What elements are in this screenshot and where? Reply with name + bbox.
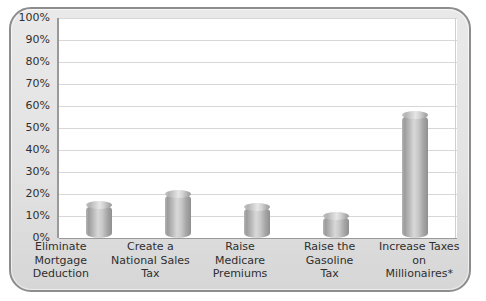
- bar[interactable]: [165, 194, 191, 238]
- y-axis-tick-label: 80%: [0, 56, 50, 67]
- bar-top-cap: [244, 203, 270, 211]
- y-axis-tick-label: 90%: [0, 34, 50, 45]
- bar[interactable]: [86, 205, 112, 238]
- bar-slot: [217, 18, 296, 238]
- y-axis-tick-label: 20%: [0, 188, 50, 199]
- x-axis-label-line: Deduction: [15, 267, 107, 281]
- bar-slot: [59, 18, 138, 238]
- x-axis-label-line: Tax: [104, 267, 196, 281]
- x-axis-label-line: Gasoline: [284, 254, 376, 268]
- bar[interactable]: [323, 216, 349, 238]
- gridline: [59, 238, 457, 239]
- x-axis-category-label: Raise theGasolineTax: [284, 240, 376, 281]
- x-axis-label-line: Eliminate: [15, 240, 107, 254]
- bar-slot: [297, 18, 376, 238]
- x-axis-category-label: EliminateMortgageDeduction: [15, 240, 107, 281]
- x-axis-label-line: Mortgage: [15, 254, 107, 268]
- x-axis-label-line: Millionaires*: [373, 267, 465, 281]
- x-axis-category-label: Increase TaxesonMillionaires*: [373, 240, 465, 281]
- x-axis-category-labels: EliminateMortgageDeductionCreate aNation…: [16, 240, 464, 290]
- x-axis-category-label: Create aNational SalesTax: [104, 240, 196, 281]
- bar[interactable]: [244, 207, 270, 238]
- x-axis-category-label: RaiseMedicarePremiums: [194, 240, 286, 281]
- x-axis-label-line: on: [373, 254, 465, 268]
- y-axis-tick-label: 70%: [0, 78, 50, 89]
- y-axis-tick-label: 100%: [0, 12, 50, 23]
- bar-slot: [138, 18, 217, 238]
- bar-top-cap: [86, 201, 112, 209]
- y-axis-tick-label: 40%: [0, 144, 50, 155]
- bar-slot: [376, 18, 455, 238]
- x-axis-label-line: Raise: [194, 240, 286, 254]
- x-axis-label-line: Premiums: [194, 267, 286, 281]
- bar-top-cap: [402, 111, 428, 119]
- x-axis-label-line: Increase Taxes: [373, 240, 465, 254]
- x-axis-label-line: Medicare: [194, 254, 286, 268]
- y-axis-tick-label: 60%: [0, 100, 50, 111]
- bar-top-cap: [165, 190, 191, 198]
- bar-series: [59, 18, 455, 238]
- bar-top-cap: [323, 212, 349, 220]
- x-axis-label-line: National Sales: [104, 254, 196, 268]
- y-axis-tick-label: 30%: [0, 166, 50, 177]
- x-axis-label-line: Tax: [284, 267, 376, 281]
- x-axis-label-line: Raise the: [284, 240, 376, 254]
- plot-right-border: [455, 18, 456, 238]
- y-axis-tick-label: 10%: [0, 210, 50, 221]
- y-axis-tick-label: 50%: [0, 122, 50, 133]
- chart-container: 100%90%80%70%60%50%40%30%20%10%0% Elimin…: [0, 0, 486, 301]
- x-axis-label-line: Create a: [104, 240, 196, 254]
- bar[interactable]: [402, 115, 428, 238]
